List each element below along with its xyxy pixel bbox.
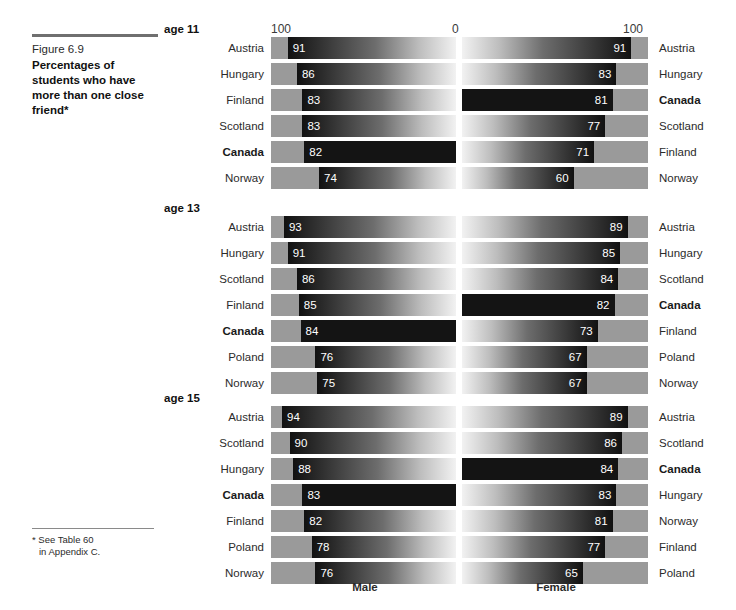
female-bar-value: 71: [576, 141, 589, 163]
male-country-label: Austria: [180, 406, 264, 428]
male-bar-fill: 82: [304, 510, 456, 532]
female-country-label: Canada: [659, 458, 733, 480]
female-bar-value: 85: [602, 242, 615, 264]
male-bar-value: 84: [306, 320, 319, 342]
male-bar-track: 84: [271, 320, 456, 342]
female-bar-track: 60: [462, 167, 648, 189]
female-bar-value: 84: [600, 458, 613, 480]
male-bar-fill: 91: [288, 37, 456, 59]
chart-row: Poland7667Poland: [0, 346, 736, 368]
male-bar-value: 83: [307, 115, 320, 137]
male-bar-track: 90: [271, 432, 456, 454]
female-bar-value: 89: [610, 216, 623, 238]
female-country-label: Hungary: [659, 484, 733, 506]
female-country-label: Scotland: [659, 268, 733, 290]
male-country-label: Canada: [180, 320, 264, 342]
female-bar-track: 83: [462, 484, 648, 506]
chart-row: Finland8281Norway: [0, 510, 736, 532]
female-bar-fill: 83: [462, 484, 616, 506]
female-bar-track: 73: [462, 320, 648, 342]
chart-row: Austria9389Austria: [0, 216, 736, 238]
female-country-label: Poland: [659, 346, 733, 368]
female-bar-track: 89: [462, 216, 648, 238]
male-bar-value: 85: [304, 294, 317, 316]
female-bar-value: 86: [604, 432, 617, 454]
male-country-label: Norway: [180, 562, 264, 584]
female-country-label: Scotland: [659, 432, 733, 454]
chart-row: Austria9191Austria: [0, 37, 736, 59]
female-bar-track: 77: [462, 115, 648, 137]
male-bar-track: 86: [271, 268, 456, 290]
female-country-label: Finland: [659, 320, 733, 342]
male-country-label: Canada: [180, 484, 264, 506]
female-bar-fill: 85: [462, 242, 620, 264]
female-bar-track: 83: [462, 63, 648, 85]
female-bar-value: 77: [587, 536, 600, 558]
male-bar-fill: 83: [302, 89, 456, 111]
female-country-label: Norway: [659, 167, 733, 189]
male-bar-fill: 93: [284, 216, 456, 238]
female-bar-fill: 89: [462, 216, 628, 238]
female-bar-fill: 77: [462, 536, 605, 558]
male-bar-fill: 86: [297, 63, 456, 85]
female-bar-fill: 67: [462, 346, 587, 368]
male-bar-track: 83: [271, 484, 456, 506]
male-country-label: Finland: [180, 294, 264, 316]
chart-row: Austria9489Austria: [0, 406, 736, 428]
male-bar-track: 91: [271, 37, 456, 59]
male-bar-fill: 88: [293, 458, 456, 480]
female-country-label: Canada: [659, 294, 733, 316]
female-country-label: Canada: [659, 89, 733, 111]
female-bar-fill: 81: [462, 89, 613, 111]
male-bar-track: 93: [271, 216, 456, 238]
male-bar-track: 91: [271, 242, 456, 264]
female-bar-fill: 82: [462, 294, 615, 316]
female-bar-fill: 84: [462, 458, 618, 480]
chart-row: Scotland8684Scotland: [0, 268, 736, 290]
male-bar-fill: 86: [297, 268, 456, 290]
chart-row: Scotland9086Scotland: [0, 432, 736, 454]
male-bar-fill: 83: [302, 484, 456, 506]
female-bar-fill: 86: [462, 432, 622, 454]
male-bar-fill: 91: [288, 242, 456, 264]
male-country-label: Poland: [180, 536, 264, 558]
male-bar-value: 83: [307, 89, 320, 111]
female-country-label: Austria: [659, 406, 733, 428]
male-bar-track: 78: [271, 536, 456, 558]
female-bar-fill: 84: [462, 268, 618, 290]
age-group-age-11: age 11Austria9191AustriaHungary8683Hunga…: [0, 21, 736, 193]
chart-row: Canada8271Finland: [0, 141, 736, 163]
chart-row: Hungary8683Hungary: [0, 63, 736, 85]
female-bar-value: 82: [597, 294, 610, 316]
series-label-male: Male: [341, 581, 389, 593]
male-bar-fill: 90: [290, 432, 457, 454]
male-country-label: Hungary: [180, 63, 264, 85]
chart-row: Hungary8884Canada: [0, 458, 736, 480]
chart-row: Canada8473Finland: [0, 320, 736, 342]
male-bar-value: 76: [320, 346, 333, 368]
male-bar-value: 82: [309, 510, 322, 532]
female-bar-track: 71: [462, 141, 648, 163]
female-country-label: Norway: [659, 510, 733, 532]
female-bar-track: 85: [462, 242, 648, 264]
male-bar-track: 82: [271, 510, 456, 532]
female-bar-fill: 89: [462, 406, 628, 428]
age-group-age-15: age 15Austria9489AustriaScotland9086Scot…: [0, 390, 736, 588]
female-country-label: Finland: [659, 141, 733, 163]
male-bar-fill: 85: [299, 294, 456, 316]
chart-row: Finland8582Canada: [0, 294, 736, 316]
male-country-label: Finland: [180, 89, 264, 111]
female-bar-track: 84: [462, 268, 648, 290]
figure-page: Figure 6.9 Percentages of students who h…: [0, 0, 736, 610]
female-bar-track: 91: [462, 37, 648, 59]
age-group-label: age 11: [164, 23, 199, 35]
female-bar-value: 67: [569, 346, 582, 368]
female-bar-track: 89: [462, 406, 648, 428]
female-bar-track: 84: [462, 458, 648, 480]
male-bar-value: 88: [298, 458, 311, 480]
female-country-label: Austria: [659, 216, 733, 238]
chart-row: Finland8381Canada: [0, 89, 736, 111]
chart-row: Norway7460Norway: [0, 167, 736, 189]
male-country-label: Finland: [180, 510, 264, 532]
female-bar-value: 73: [580, 320, 593, 342]
